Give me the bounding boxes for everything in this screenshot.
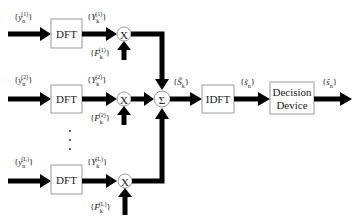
arrow-head — [155, 79, 169, 90]
ellipsis-dots — [69, 130, 71, 150]
multiplier-symbol: X — [121, 176, 129, 188]
arrow-head — [106, 27, 117, 41]
multiplier-symbol: X — [120, 29, 128, 41]
dft-label-1: DFT — [56, 28, 77, 40]
weight-label-1: {Fk(1)} — [90, 47, 110, 60]
branch-L: {yn(L)} DFT {Yk(L)} X {Fk(L)} — [8, 108, 169, 215]
input-label-1: {yn(1)} — [14, 11, 33, 24]
multiplier-symbol: X — [120, 94, 128, 106]
arrow-head — [40, 27, 51, 41]
arrow-head — [106, 92, 117, 106]
arrow-head — [190, 92, 202, 106]
arrow-head — [118, 188, 132, 197]
idft-output-label: {s̃n} — [240, 77, 255, 89]
arrow-head — [117, 106, 131, 115]
idft-label: IDFT — [206, 93, 231, 105]
dft-label-L: DFT — [56, 174, 77, 186]
dft-output-label-L: {Yk(L)} — [87, 156, 107, 169]
dft-label-2: DFT — [56, 93, 77, 105]
receiver-block-diagram: {yn(1)} DFT {Yk(1)} X {Fk(1)} {yn(2)} DF… — [0, 0, 362, 223]
decision-label-line2: Device — [276, 99, 307, 111]
decision-label-line1: Decision — [272, 86, 312, 98]
weight-label-2: {Fk(2)} — [90, 112, 110, 125]
branch-2: {yn(2)} DFT {Yk(2)} X {Fk(2)} — [8, 74, 154, 125]
arrow-head — [117, 41, 131, 50]
arrow-head — [40, 174, 51, 188]
arrow-head — [155, 108, 169, 119]
arrow-head — [258, 92, 270, 106]
dft-output-label-2: {Yk(2)} — [87, 74, 107, 87]
combiner-output-label: {S̃k} — [173, 77, 189, 89]
arrow-head — [40, 92, 51, 106]
output-arrow-head — [340, 92, 352, 106]
summation-symbol: Σ — [159, 94, 165, 106]
arrow-head — [106, 174, 117, 188]
weight-label-L: {Fk(L)} — [90, 201, 111, 214]
input-label-2: {yn(2)} — [14, 74, 33, 87]
dft-output-label-1: {Yk(1)} — [87, 11, 107, 24]
wire — [132, 118, 162, 181]
input-label-L: {yn(L)} — [14, 156, 33, 169]
decision-output-label: {ŝn} — [322, 77, 337, 89]
wire — [131, 34, 162, 80]
arrow-head — [144, 92, 154, 106]
